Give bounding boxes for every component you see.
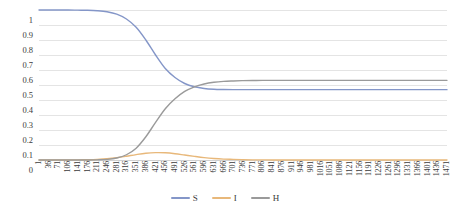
x-axis: 1367110614117621124628131635138642145649… — [39, 161, 447, 189]
y-axis-tick-label: 0 — [29, 166, 33, 175]
x-axis-tick-label: 1401 — [424, 161, 432, 176]
x-axis-tick-label: 1191 — [365, 161, 373, 176]
x-axis-tick-label: 736 — [239, 161, 247, 172]
legend-label: I — [234, 194, 237, 203]
x-axis-tick-label: 876 — [278, 161, 286, 172]
x-axis-tick-label: 141 — [74, 161, 82, 172]
x-axis-tick-label: 281 — [113, 161, 121, 172]
x-axis-tick-label: 1121 — [346, 161, 354, 176]
x-axis-tick-label: 1436 — [433, 161, 441, 176]
legend-label: H — [273, 194, 280, 203]
x-axis-tick-label: 946 — [297, 161, 305, 172]
x-axis-tick-label: 106 — [64, 161, 72, 172]
y-axis-tick-label: 0.7 — [22, 61, 33, 70]
x-axis-tick-label: 1051 — [326, 161, 334, 176]
x-axis-tick-label: 1471 — [443, 161, 450, 176]
x-axis-tick-label: 1366 — [414, 161, 422, 176]
series-line-h — [39, 80, 447, 160]
series-line-i — [39, 153, 447, 160]
x-axis-tick-label: 211 — [93, 161, 101, 172]
legend-item-s[interactable]: S — [171, 194, 198, 203]
y-axis-tick-label: 0.3 — [22, 121, 33, 130]
series-lines — [39, 10, 447, 160]
legend-label: S — [193, 194, 198, 203]
x-axis-tick-label: 1086 — [336, 161, 344, 176]
x-axis-tick-label: 701 — [229, 161, 237, 172]
x-axis-tick-label: 491 — [171, 161, 179, 172]
x-axis-tick-label: 806 — [258, 161, 266, 172]
y-axis-tick-label: 1 — [29, 16, 33, 25]
y-axis-tick-label: 0.9 — [22, 31, 33, 40]
x-axis-tick-label: 666 — [220, 161, 228, 172]
x-axis-tick-label: 1016 — [317, 161, 325, 176]
x-axis-tick-label: 386 — [142, 161, 150, 172]
plot-area — [39, 10, 447, 160]
x-axis-tick-label: 1296 — [394, 161, 402, 176]
x-axis-tick-label: 36 — [45, 161, 53, 169]
legend-item-h[interactable]: H — [251, 194, 280, 203]
x-axis-tick-label: 841 — [268, 161, 276, 172]
x-axis-tick-label: 456 — [161, 161, 169, 172]
x-axis-tick-label: 1331 — [404, 161, 412, 176]
y-axis-tick-label: 0.6 — [22, 76, 33, 85]
x-axis-tick-label: 526 — [181, 161, 189, 172]
x-axis-tick-label: 71 — [54, 161, 62, 169]
x-axis-tick-label: 561 — [190, 161, 198, 172]
legend-swatch-i — [212, 197, 231, 199]
y-axis-tick-label: 0.5 — [22, 91, 33, 100]
x-axis-tick-label: 421 — [152, 161, 160, 172]
y-axis: 00.10.20.30.40.50.60.70.80.91 — [0, 10, 36, 160]
x-axis-tick-label: 771 — [249, 161, 257, 172]
legend-swatch-h — [251, 197, 270, 199]
legend-swatch-s — [171, 197, 190, 199]
x-axis-tick-label: 1226 — [375, 161, 383, 176]
x-axis-tick-label: 1261 — [385, 161, 393, 176]
y-axis-tick-label: 0.1 — [22, 151, 33, 160]
x-axis-tick-label: 1 — [35, 161, 43, 165]
y-axis-tick-label: 0.4 — [22, 106, 33, 115]
legend-item-i[interactable]: I — [212, 194, 237, 203]
y-axis-tick-label: 0.8 — [22, 46, 33, 55]
series-line-s — [39, 10, 447, 90]
x-axis-tick-label: 981 — [307, 161, 315, 172]
x-axis-tick-label: 316 — [122, 161, 130, 172]
chart-legend: SIH — [0, 190, 450, 206]
x-axis-tick-label: 176 — [84, 161, 92, 172]
y-axis-tick-label: 0.2 — [22, 136, 33, 145]
x-axis-tick-label: 911 — [288, 161, 296, 172]
x-axis-tick-label: 246 — [103, 161, 111, 172]
x-axis-tick-label: 351 — [132, 161, 140, 172]
x-axis-tick-label: 1156 — [356, 161, 364, 176]
line-chart: 00.10.20.30.40.50.60.70.80.91 1367110614… — [0, 0, 450, 212]
x-axis-tick-label: 631 — [210, 161, 218, 172]
x-axis-tick-label: 596 — [200, 161, 208, 172]
